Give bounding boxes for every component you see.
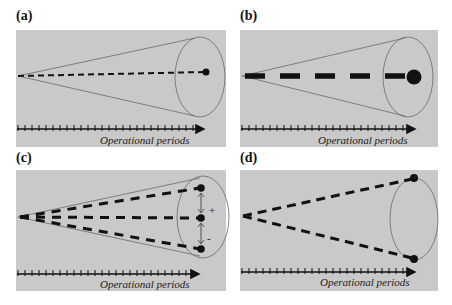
endpoint-dot — [407, 70, 422, 85]
diagram-b — [241, 37, 433, 131]
forecast-path-upper — [20, 188, 200, 217]
axis-label-c: Operational periods — [100, 278, 190, 290]
axis-label-d: Operational periods — [320, 276, 410, 288]
forecast-path-lower — [243, 216, 412, 258]
endpoint-dot-middle — [197, 214, 205, 222]
endpoint-dot — [203, 69, 210, 76]
figure-canvas: Operational periods Operational periods — [0, 0, 452, 305]
plus-annotation: + — [209, 204, 215, 216]
cone-edge-bottom — [18, 76, 195, 116]
cone-base-ellipse — [175, 37, 225, 117]
diagram-a — [17, 37, 225, 131]
axis-label-b: Operational periods — [318, 134, 408, 146]
forecast-path-upper — [243, 179, 412, 216]
time-axis — [241, 268, 414, 274]
diagram-d — [241, 174, 438, 274]
diagram-c: + - — [17, 176, 229, 276]
forecast-path — [18, 72, 205, 76]
endpoint-dot-lower — [410, 255, 418, 263]
cone-edge-top — [242, 38, 405, 76]
forecast-path-middle — [20, 217, 200, 218]
endpoint-dot-upper — [410, 174, 418, 182]
cone-edge-top — [18, 38, 195, 76]
time-axis — [241, 125, 414, 131]
endpoint-dot-lower — [197, 245, 205, 253]
axis-label-a: Operational periods — [100, 134, 190, 146]
minus-annotation: - — [207, 232, 211, 244]
cone-edge-bottom — [242, 76, 405, 116]
time-axis — [17, 270, 198, 276]
forecast-path-lower — [20, 217, 200, 249]
cone-edge-bottom — [18, 217, 200, 256]
endpoint-dot-upper — [197, 184, 205, 192]
cone-edge-top — [18, 178, 200, 217]
time-axis — [17, 125, 203, 131]
cone-base-ellipse — [390, 178, 438, 260]
